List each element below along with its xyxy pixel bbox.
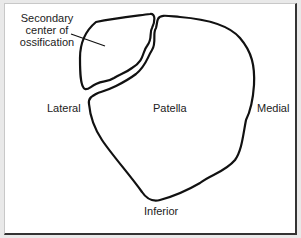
label-secondary-line1: Secondary bbox=[14, 12, 80, 24]
label-secondary-center: Secondary center of ossification bbox=[14, 12, 80, 48]
label-medial: Medial bbox=[257, 102, 289, 114]
label-inferior: Inferior bbox=[144, 205, 178, 217]
label-patella: Patella bbox=[153, 102, 187, 114]
secondary-ossification-fragment bbox=[80, 14, 154, 89]
label-secondary-line2: center of bbox=[14, 24, 80, 36]
label-secondary-line3: ossification bbox=[14, 36, 80, 48]
label-lateral: Lateral bbox=[47, 102, 81, 114]
